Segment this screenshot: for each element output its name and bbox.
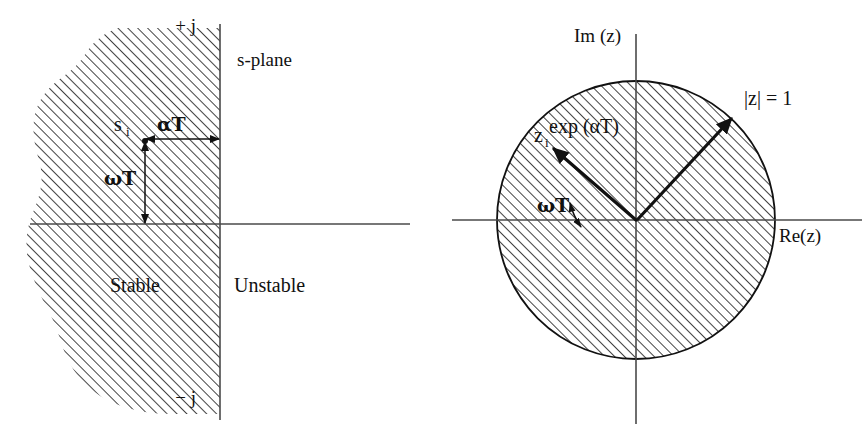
stability-mapping-diagram: + j − j s-plane s i αT ωT Stable Unstabl…: [0, 0, 867, 443]
stable-region-label: Stable: [110, 274, 160, 296]
s-plane-panel: + j − j s-plane s i αT ωT Stable Unstabl…: [20, 15, 410, 420]
z-plane-panel: Im (z) Re(z) |z| = 1 z i exp (αT) ωT: [452, 25, 862, 424]
z-plane-imag-axis-label: Im (z): [574, 25, 621, 47]
s-plane-label: s-plane: [237, 49, 292, 70]
unstable-region-label: Unstable: [234, 274, 305, 296]
s-plane-pole-label-base: s: [114, 113, 122, 135]
z-plane-real-axis-label: Re(z): [779, 225, 821, 247]
alpha-t-label: αT: [157, 113, 186, 135]
unit-circle-label: |z| = 1: [744, 87, 792, 110]
z-plane-pole-label-subscript: i: [545, 135, 549, 150]
figure-root: + j − j s-plane s i αT ωT Stable Unstabl…: [0, 0, 867, 443]
z-plane-pole-magnitude-label: exp (αT): [549, 115, 619, 138]
omega-t-label: ωT: [104, 167, 136, 189]
s-plane-plus-j-label: + j: [175, 15, 196, 36]
s-plane-minus-j-label: − j: [175, 387, 196, 408]
s-plane-stable-hatch: [20, 20, 230, 420]
z-plane-unit-disc-hatch: [490, 75, 785, 370]
s-plane-pole-label-subscript: i: [126, 124, 130, 139]
z-plane-angle-label: ωT: [537, 194, 569, 216]
z-plane-pole-label-base: z: [534, 124, 543, 146]
